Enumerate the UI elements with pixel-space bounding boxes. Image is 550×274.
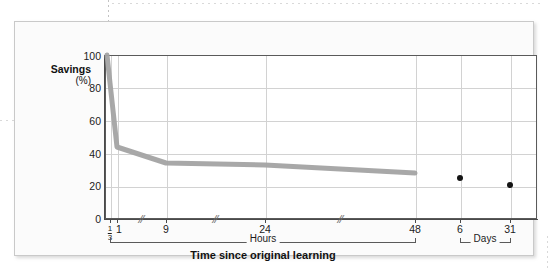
scan-artifact-dotted-top xyxy=(112,3,544,4)
scan-artifact-dotted-right xyxy=(547,236,548,270)
data-series-layer xyxy=(15,22,533,255)
figure-panel: Savings (%) 100 80 60 40 20 0 xyxy=(14,21,534,256)
data-point-day-31 xyxy=(507,182,513,188)
fraction-numerator: 1 xyxy=(108,225,112,233)
x-tick-label: 6 xyxy=(457,224,463,235)
x-axis-line xyxy=(104,219,538,220)
bracket-hours-label: Hours xyxy=(247,234,280,244)
x-tick-label: 31 xyxy=(504,224,516,235)
x-tick-label: 9 xyxy=(163,224,169,235)
x-tick-label: 1 xyxy=(116,224,122,235)
x-tick-label: 48 xyxy=(409,224,421,235)
data-point-day-6 xyxy=(457,175,463,181)
savings-curve xyxy=(107,55,415,173)
bracket-days-label: Days xyxy=(471,234,500,244)
x-axis-title: Time since original learning xyxy=(190,249,335,261)
figure-screenshot: Savings (%) 100 80 60 40 20 0 xyxy=(0,0,550,274)
x-tick-mark xyxy=(110,219,111,223)
